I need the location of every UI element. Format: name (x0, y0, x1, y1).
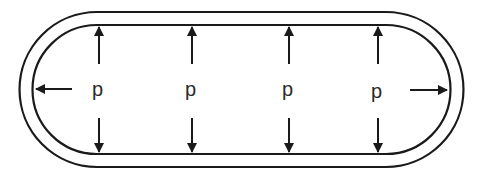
pressure-vessel-diagram: p p p p (0, 0, 482, 179)
outer-wall (20, 12, 464, 167)
pressure-label: p (185, 78, 196, 100)
pressure-group-2: p (185, 27, 196, 152)
pressure-group-3: p (282, 27, 293, 152)
pressure-group-4: p (371, 27, 447, 152)
pressure-label: p (371, 80, 382, 102)
pressure-group-1: p (36, 27, 103, 152)
pressure-label: p (282, 78, 293, 100)
pressure-label: p (92, 78, 103, 100)
